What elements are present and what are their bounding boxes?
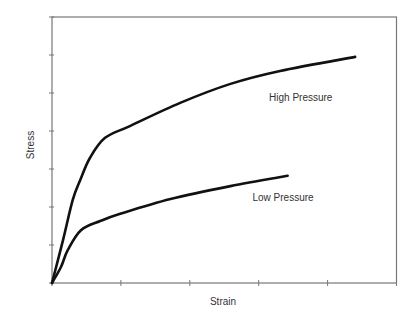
stress-strain-chart: High PressureLow Pressure Strain Stress xyxy=(0,0,417,321)
low-pressure-label: Low Pressure xyxy=(252,192,314,203)
high-pressure-label: High Pressure xyxy=(269,92,333,103)
plot-frame xyxy=(52,17,397,283)
x-axis-label: Strain xyxy=(210,296,236,307)
y-axis-label: Stress xyxy=(25,131,36,159)
curve-labels: High PressureLow Pressure xyxy=(252,92,332,204)
